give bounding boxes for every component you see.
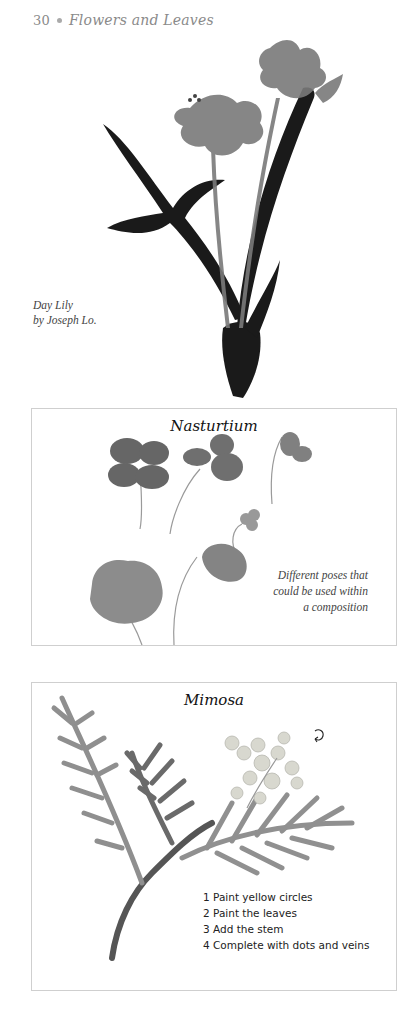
mimosa-steps-list: 1 Paint yellow circles 2 Paint the leave… — [203, 889, 369, 953]
caption-title: Day Lily — [33, 298, 97, 313]
caption-line: could be used within — [273, 583, 368, 599]
step-item: 2 Paint the leaves — [203, 905, 369, 921]
nasturtium-caption: Different poses that could be used withi… — [273, 567, 368, 615]
rotate-arrow-icon — [311, 728, 325, 744]
caption-line: Different poses that — [273, 567, 368, 583]
page-number: 30 — [33, 13, 50, 28]
running-head: 30 Flowers and Leaves — [33, 12, 214, 28]
caption-credit: by Joseph Lo. — [33, 313, 97, 328]
mimosa-panel: Mimosa — [31, 682, 397, 991]
caption-line: a composition — [273, 599, 368, 615]
chapter-title: Flowers and Leaves — [69, 12, 214, 28]
step-item: 1 Paint yellow circles — [203, 889, 369, 905]
nasturtium-panel: Nasturtium — [31, 408, 397, 646]
step-item: 4 Complete with dots and veins — [203, 937, 369, 953]
day-lily-caption: Day Lily by Joseph Lo. — [33, 298, 97, 328]
step-item: 3 Add the stem — [203, 921, 369, 937]
day-lily-painting — [95, 28, 355, 400]
bullet-icon — [57, 18, 62, 23]
